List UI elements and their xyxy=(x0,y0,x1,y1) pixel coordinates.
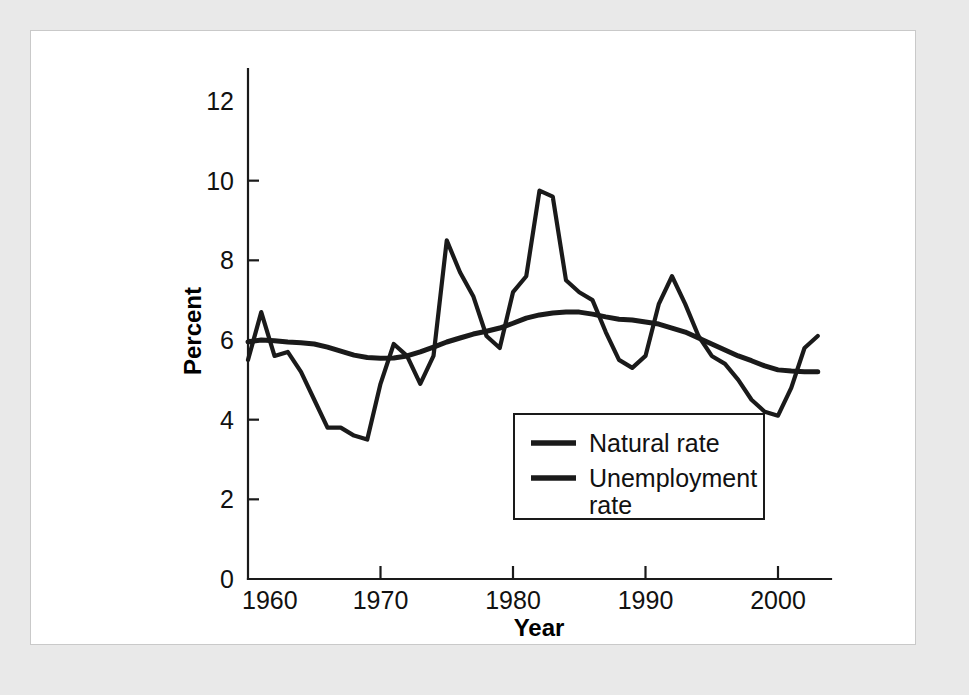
unemployment-natural-rate-line-chart: 024681012 19601970198019902000 Percent Y… xyxy=(31,31,917,646)
y-axis-tick-labels: 024681012 xyxy=(206,87,234,593)
y-tick-label: 8 xyxy=(220,246,234,274)
x-axis-tick-labels: 19601970198019902000 xyxy=(242,586,806,614)
y-tick-label: 10 xyxy=(206,167,234,195)
x-tick-label: 1990 xyxy=(618,586,674,614)
y-tick-label: 4 xyxy=(220,406,234,434)
x-tick-label: 1960 xyxy=(242,586,298,614)
y-axis-title: Percent xyxy=(179,287,206,375)
y-tick-label: 2 xyxy=(220,485,234,513)
legend-label-natural-rate: Natural rate xyxy=(589,429,720,457)
y-tick-label: 6 xyxy=(220,326,234,354)
chart-legend: Natural rate Unemployment rate xyxy=(514,414,764,519)
x-tick-label: 1970 xyxy=(353,586,409,614)
y-tick-label: 0 xyxy=(220,565,234,593)
x-tick-label: 2000 xyxy=(750,586,806,614)
y-tick-label: 12 xyxy=(206,87,234,115)
x-axis-title: Year xyxy=(514,614,565,641)
x-tick-label: 1980 xyxy=(485,586,541,614)
series-line-natural-rate xyxy=(248,312,818,372)
legend-label-unemployment-rate-line2: rate xyxy=(589,491,632,519)
figure-outer-frame: 024681012 19601970198019902000 Percent Y… xyxy=(0,0,969,695)
figure-panel: 024681012 19601970198019902000 Percent Y… xyxy=(30,30,916,645)
chart-area: 024681012 19601970198019902000 Percent Y… xyxy=(31,31,917,646)
x-axis-ticks xyxy=(381,566,779,579)
legend-label-unemployment-rate: Unemployment xyxy=(589,464,757,492)
